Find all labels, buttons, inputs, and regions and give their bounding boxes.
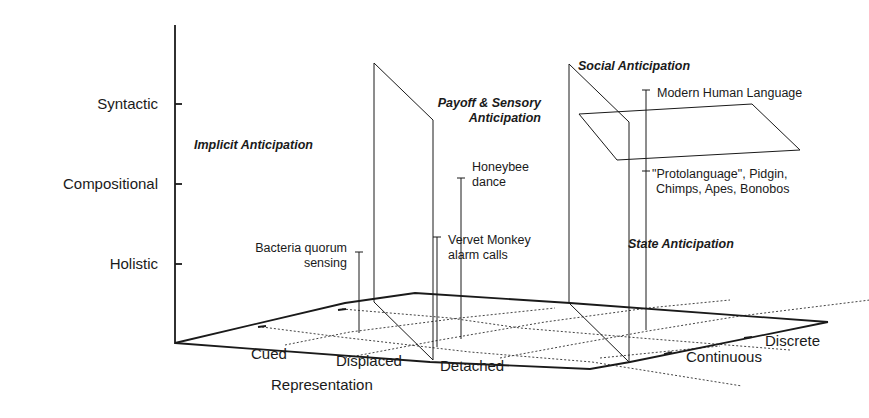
region-label-payoff-sensory-1: Payoff & Sensory [438,96,542,110]
point-label-protolanguage: "Protolanguage", Pidgin, [652,167,787,181]
point-label-honeybee: dance [472,175,506,189]
vertical-tick-label: Syntactic [97,95,158,112]
point-label-vervet: Vervet Monkey [448,233,531,247]
representation-axis-title: Representation [271,376,373,393]
region-label-payoff-sensory-2: Anticipation [468,111,542,125]
representation-level-cued: Cued [251,345,287,362]
region-label-social: Social Anticipation [578,59,690,73]
point-stems [355,90,650,347]
point-label-protolanguage: Chimps, Apes, Bonobos [656,182,789,196]
point-label-bacteria: sensing [304,256,347,270]
language-plane [579,104,800,160]
payoff-sensory-plane [374,63,433,360]
representation-level-detached: Detached [440,357,504,374]
point-label-honeybee: Honeybee [472,160,529,174]
region-label-state: State Anticipation [628,237,734,251]
region-label-implicit: Implicit Anticipation [194,138,313,152]
vertical-axis: Syntactic Compositional Holistic [63,25,182,344]
vertical-tick-label: Compositional [63,175,158,192]
content-level-discrete: Discrete [765,332,820,349]
point-label-vervet: alarm calls [448,248,508,262]
point-label-modern-human: Modern Human Language [657,86,802,100]
anticipation-3d-diagram: Syntactic Compositional Holistic [0,0,869,418]
content-level-continuous: Continuous [686,348,762,365]
region-labels: Implicit Anticipation Payoff & Sensory A… [194,59,734,251]
representation-level-displaced: Displaced [336,352,402,369]
vertical-tick-label: Holistic [110,255,159,272]
point-label-bacteria: Bacteria quorum [255,241,347,255]
